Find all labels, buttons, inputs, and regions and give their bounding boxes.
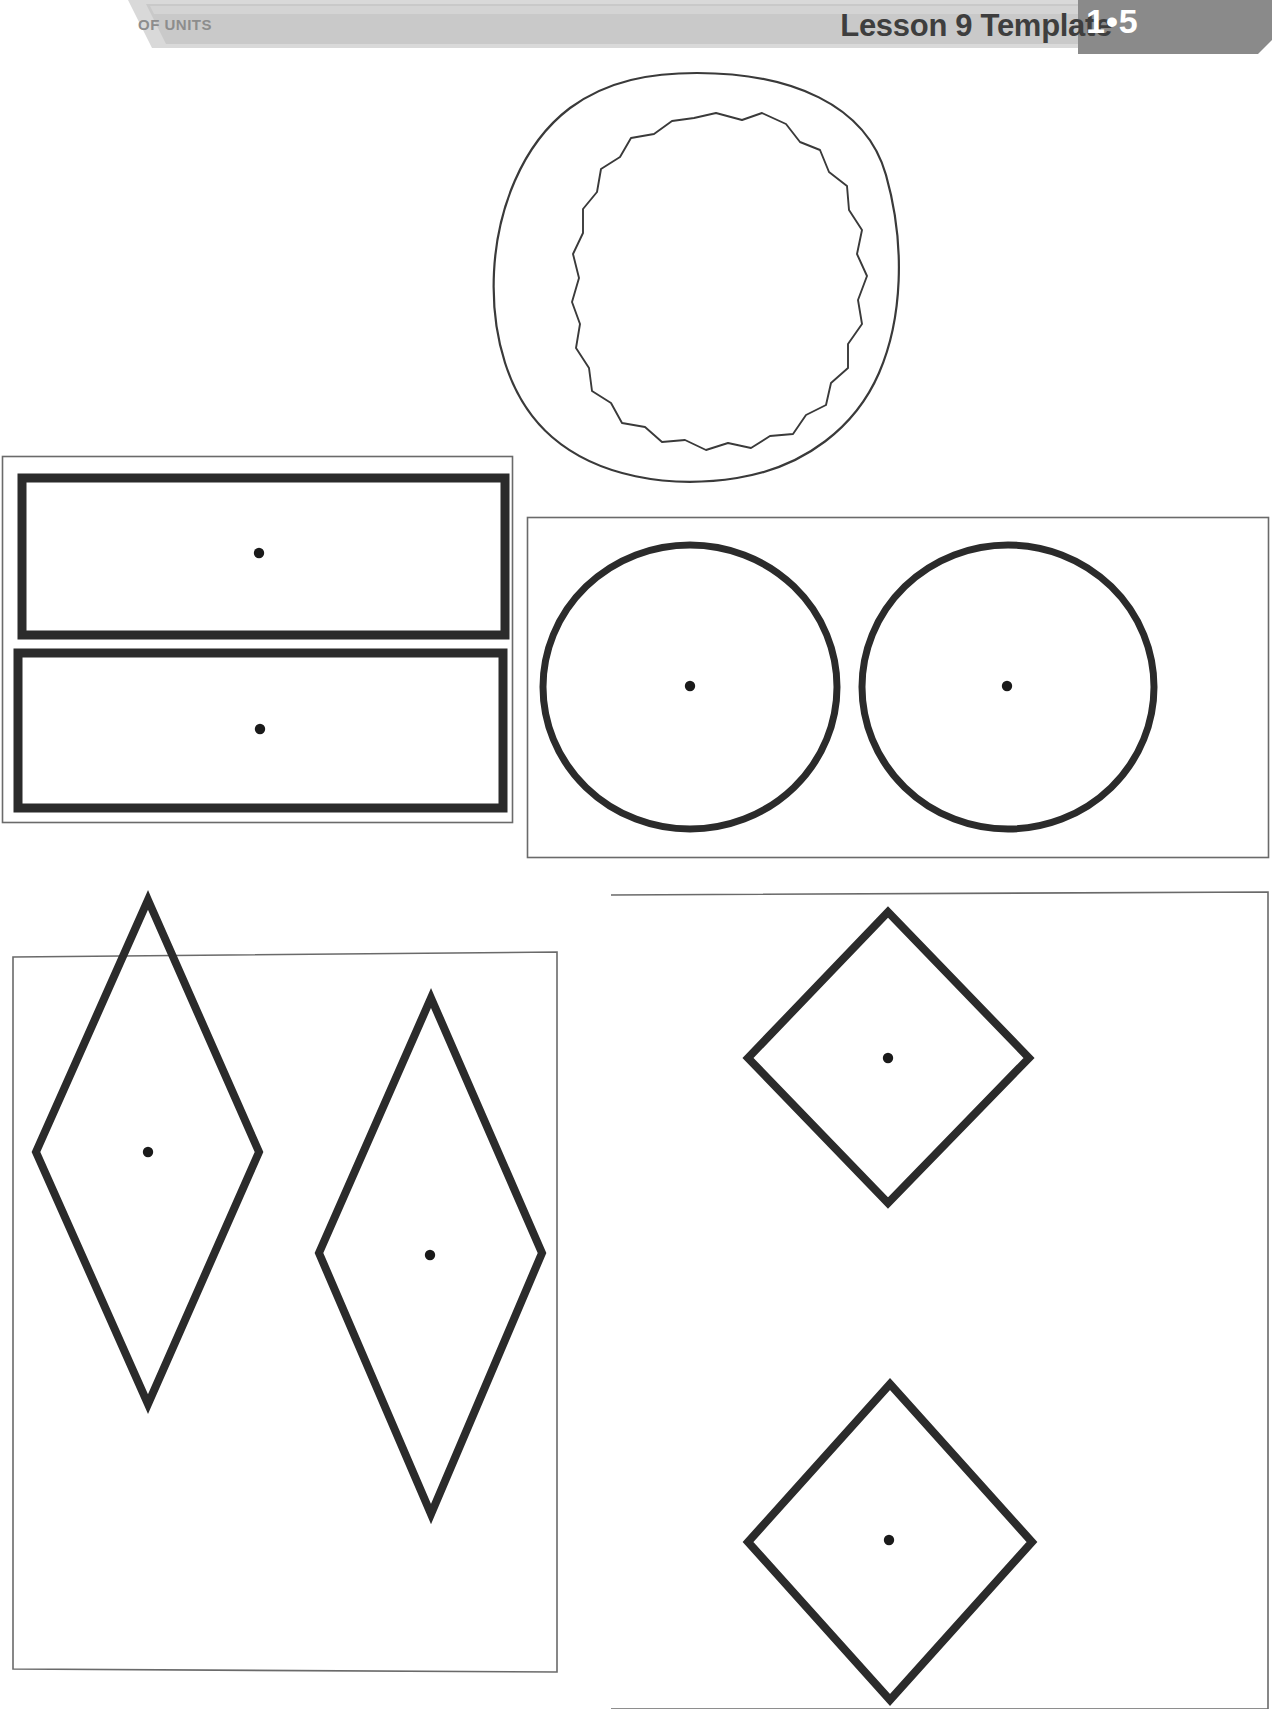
circle-1-center-dot (685, 681, 695, 691)
squares-panel (611, 892, 1268, 1709)
square-diamond-1-center-dot (883, 1053, 893, 1063)
squares-panel-frame (611, 892, 1268, 1709)
square-diamond-2-center-dot (884, 1535, 894, 1545)
rhombus-1-center-dot (143, 1147, 153, 1157)
rectangle-shape-1 (22, 478, 505, 635)
rhombuses-panel (13, 900, 557, 1672)
rectangle-2-center-dot (255, 724, 265, 734)
shapes-svg (0, 0, 1272, 1709)
circle-2-center-dot (1002, 681, 1012, 691)
circles-panel (528, 518, 1269, 858)
rectangle-1-center-dot (254, 548, 264, 558)
cookie-circle-group (494, 73, 899, 482)
cookie-outer-circle (494, 73, 899, 482)
cookie-inner-scallop (572, 113, 867, 450)
template-shape-board (0, 0, 1272, 1709)
rhombuses-panel-frame (13, 952, 557, 1672)
rectangles-panel (3, 457, 513, 823)
rhombus-2-center-dot (425, 1250, 435, 1260)
